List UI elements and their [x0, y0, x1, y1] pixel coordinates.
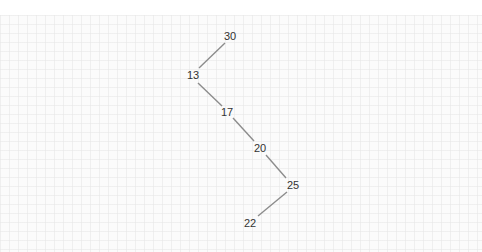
edge-25-22 — [258, 192, 287, 216]
edge-13-17 — [198, 83, 222, 106]
tree-node-30: 30 — [224, 30, 236, 42]
tree-node-13: 13 — [187, 69, 199, 81]
edge-17-20 — [233, 118, 254, 141]
tree-node-20: 20 — [254, 142, 266, 154]
edge-30-13 — [199, 43, 225, 68]
tree-node-25: 25 — [287, 179, 299, 191]
edge-20-25 — [266, 155, 286, 178]
tree-node-22: 22 — [244, 217, 256, 229]
tree-edges — [0, 0, 482, 252]
tree-node-17: 17 — [221, 106, 233, 118]
